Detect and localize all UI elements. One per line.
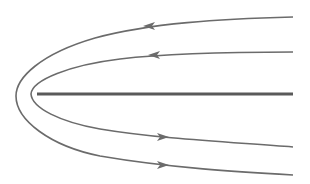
- diagram-canvas: [0, 0, 310, 184]
- streamline-diagram: Flow lines around a flat plate (streamli…: [0, 0, 310, 184]
- background: [0, 0, 310, 184]
